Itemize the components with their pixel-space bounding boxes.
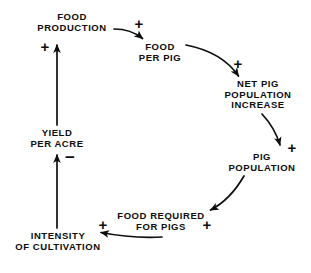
- polarity-food-production-to-food-per-pig: +: [135, 16, 144, 31]
- polarity-intensity-of-cultivation-to-yield-per-acre: −: [65, 150, 75, 165]
- node-net-pig-population-increase: NET PIG POPULATION INCREASE: [224, 79, 291, 111]
- polarity-net-pig-population-increase-to-pig-population: +: [288, 140, 297, 155]
- node-yield-per-acre: YIELD PER ACRE: [30, 128, 83, 149]
- node-food-per-pig: FOOD PER PIG: [139, 42, 181, 63]
- polarity-pig-population-to-food-required-for-pigs: +: [203, 217, 212, 232]
- polarity-yield-per-acre-to-food-production: +: [41, 39, 50, 54]
- arrow-food-per-pig-to-net-pig-population-increase: [186, 45, 239, 76]
- causal-loop-diagram: FOOD PRODUCTION FOOD PER PIG NET PIG POP…: [0, 0, 311, 273]
- polarity-food-per-pig-to-net-pig-population-increase: +: [234, 56, 243, 71]
- node-intensity-of-cultivation: INTENSITY OF CULTIVATION: [15, 231, 100, 252]
- polarity-food-required-for-pigs-to-intensity-of-cultivation: +: [99, 217, 108, 232]
- node-pig-population: PIG POPULATION: [228, 152, 295, 173]
- node-food-production: FOOD PRODUCTION: [37, 12, 106, 33]
- arrow-food-required-for-pigs-to-intensity-of-cultivation: [101, 233, 162, 238]
- node-food-required-for-pigs: FOOD REQUIRED FOR PIGS: [117, 211, 204, 232]
- arrow-pig-population-to-food-required-for-pigs: [211, 176, 245, 210]
- arrow-net-pig-population-increase-to-pig-population: [262, 114, 280, 145]
